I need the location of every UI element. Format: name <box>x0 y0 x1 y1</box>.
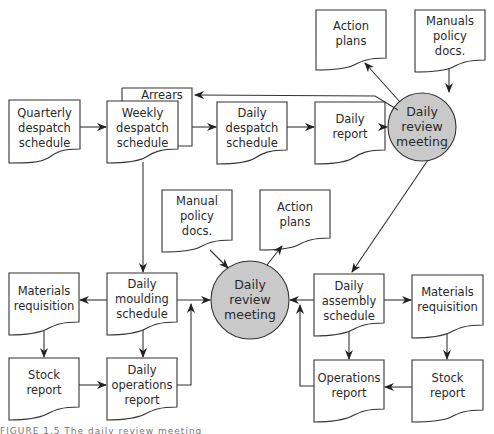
label-line: report <box>107 393 177 408</box>
label-line: operations <box>107 378 177 393</box>
label-daily-operations: Daily operations report <box>107 363 177 408</box>
label-line: Daily <box>315 112 385 127</box>
label-daily-assembly: Daily assembly schedule <box>314 279 384 324</box>
label-line: Stock <box>9 368 79 383</box>
label-line: policy <box>162 209 232 224</box>
label-line: schedule <box>314 309 384 324</box>
label-line: despatch <box>217 121 287 136</box>
figure-caption: FIGURE 1.5 The daily review meeting <box>0 426 202 434</box>
label-materials-req-right: Materials requisition <box>412 285 483 315</box>
label-line: docs. <box>162 224 232 239</box>
label-daily-report: Daily report <box>315 112 385 142</box>
label-line: Weekly <box>107 106 178 121</box>
label-line: schedule <box>107 136 178 151</box>
label-arrears: Arrears <box>132 88 192 103</box>
label-line: Materials <box>412 285 483 300</box>
label-line: Daily <box>217 106 287 121</box>
label-operations-report: Operations report <box>312 371 386 401</box>
label-line: requisition <box>9 299 79 314</box>
label-line: Stock <box>412 371 483 386</box>
label-line: Daily <box>314 279 384 294</box>
label-line: moulding <box>107 292 177 307</box>
label-daily-despatch: Daily despatch schedule <box>217 106 287 151</box>
label-quarterly-despatch: Quarterly despatch schedule <box>9 106 80 151</box>
label-line: Arrears <box>132 88 192 103</box>
label-line: Daily <box>107 363 177 378</box>
label-action-plans-mid: Action plans <box>260 200 330 230</box>
label-line: schedule <box>107 307 177 322</box>
label-line: Operations <box>312 371 386 386</box>
label-line: report <box>315 127 385 142</box>
label-manual-policy-mid: Manual policy docs. <box>162 194 232 239</box>
label-line: Daily <box>107 277 177 292</box>
label-line: Daily <box>388 104 456 119</box>
label-line: Quarterly <box>9 106 80 121</box>
label-weekly-despatch: Weekly despatch schedule <box>107 106 178 151</box>
label-line: meeting <box>388 134 456 149</box>
label-line: review <box>212 292 288 307</box>
label-daily-moulding: Daily moulding schedule <box>107 277 177 322</box>
label-line: assembly <box>314 294 384 309</box>
label-meeting-mid: Daily review meeting <box>212 277 288 322</box>
label-line: review <box>388 119 456 134</box>
label-line: schedule <box>9 136 80 151</box>
label-line: policy <box>415 29 485 44</box>
label-line: Manual <box>162 194 232 209</box>
label-line: plans <box>260 215 330 230</box>
label-line: despatch <box>9 121 80 136</box>
label-materials-req-left: Materials requisition <box>9 284 79 314</box>
label-line: requisition <box>412 300 483 315</box>
label-line: Daily <box>212 277 288 292</box>
label-line: plans <box>316 34 386 49</box>
label-line: docs. <box>415 44 485 59</box>
label-line: report <box>9 383 79 398</box>
label-line: meeting <box>212 307 288 322</box>
label-line: despatch <box>107 121 178 136</box>
label-line: Materials <box>9 284 79 299</box>
label-line: Action <box>260 200 330 215</box>
label-action-plans-top: Action plans <box>316 19 386 49</box>
label-manuals-policy-top: Manuals policy docs. <box>415 14 485 59</box>
label-line: Action <box>316 19 386 34</box>
label-line: schedule <box>217 136 287 151</box>
label-stock-report-left: Stock report <box>9 368 79 398</box>
label-line: report <box>312 386 386 401</box>
label-meeting-top: Daily review meeting <box>388 104 456 149</box>
label-stock-report-right: Stock report <box>412 371 483 401</box>
label-line: report <box>412 386 483 401</box>
label-line: Manuals <box>415 14 485 29</box>
